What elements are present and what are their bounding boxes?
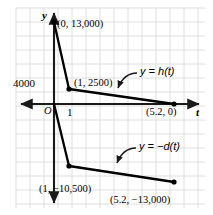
point-1-neg10500 [66,163,71,168]
point-label-1-neg10500: (1, −10,500) [39,184,91,195]
point-0-13000 [51,19,56,24]
point-label-5p2-0: (5.2, 0) [146,107,177,118]
point-label-0-13000: (0, 13,000) [57,19,103,30]
y-value-label-4000: 4000 [13,78,35,89]
annotation-arrow-upper [118,73,137,88]
plot-canvas [0,0,213,215]
function-label-neg-d: y = −d(t) [139,141,180,152]
t-axis-label: t [196,107,199,118]
function-label-h: y = h(t) [140,66,175,77]
point-label-5p2-neg13000: (5.2, −13,000) [110,195,170,206]
annotation-arrow-lower [117,148,136,163]
point-label-1-2500: (1, 2500) [74,78,113,89]
origin-label: O [44,106,52,117]
x-tick-label-1: 1 [67,107,73,118]
point-1-2500 [66,86,71,91]
graph-figure: y t O 4000 1 (0, 13,000) (1, 2500) (5.2,… [0,0,213,215]
y-axis-label: y [42,10,47,21]
point-5p2-neg13000 [171,179,176,184]
